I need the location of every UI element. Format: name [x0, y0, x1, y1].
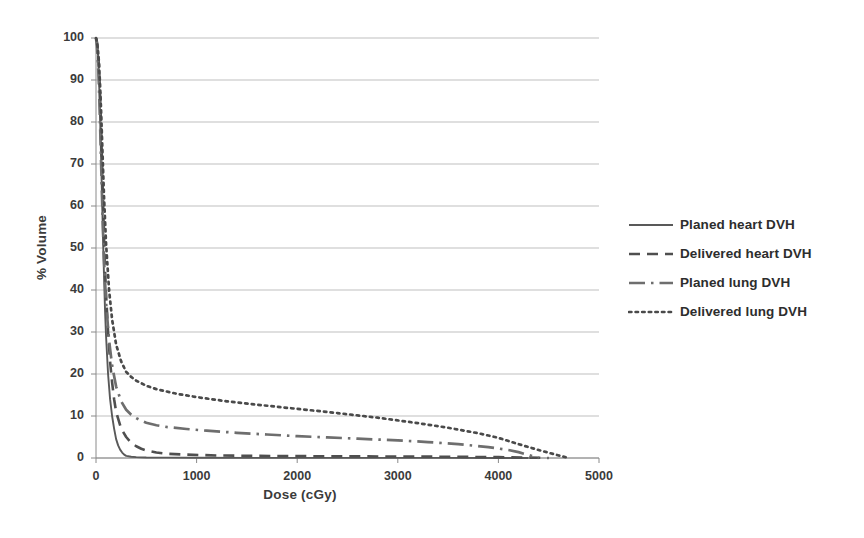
y-tick-label-20: 20 — [44, 366, 84, 380]
legend-item-3[interactable]: Delivered lung DVH — [628, 297, 860, 326]
dvh-chart-figure: Dose (cGy) % Volume 01020304050607080901… — [0, 0, 864, 538]
legend-item-1[interactable]: Delivered heart DVH — [628, 239, 860, 268]
solid-line-key — [628, 218, 674, 232]
legend-label-2: Planed lung DVH — [680, 275, 790, 290]
y-tick-label-90: 90 — [44, 72, 84, 86]
legend-item-2[interactable]: Planed lung DVH — [628, 268, 860, 297]
legend-label-1: Delivered heart DVH — [680, 246, 812, 261]
y-tick-label-0: 0 — [44, 450, 84, 464]
y-tick-label-60: 60 — [44, 198, 84, 212]
chart-legend: Planed heart DVHDelivered heart DVHPlane… — [628, 210, 860, 326]
x-axis-title: Dose (cGy) — [0, 487, 600, 502]
x-tick-label-5000: 5000 — [569, 469, 629, 483]
tick-marks-group — [91, 38, 599, 463]
y-tick-label-70: 70 — [44, 156, 84, 170]
x-tick-label-1000: 1000 — [167, 469, 227, 483]
x-tick-label-4000: 4000 — [468, 469, 528, 483]
x-tick-label-2000: 2000 — [267, 469, 327, 483]
x-tick-label-3000: 3000 — [368, 469, 428, 483]
y-tick-label-30: 30 — [44, 324, 84, 338]
y-tick-label-50: 50 — [44, 240, 84, 254]
x-tick-label-0: 0 — [66, 469, 126, 483]
legend-label-0: Planed heart DVH — [680, 217, 795, 232]
y-tick-label-10: 10 — [44, 408, 84, 422]
legend-label-3: Delivered lung DVH — [680, 304, 807, 319]
dashed-line-key — [628, 247, 674, 261]
y-tick-label-40: 40 — [44, 282, 84, 296]
y-tick-label-100: 100 — [44, 30, 84, 44]
dashdot-line-key — [628, 276, 674, 290]
legend-item-0[interactable]: Planed heart DVH — [628, 210, 860, 239]
gridlines-group — [96, 38, 599, 458]
y-tick-label-80: 80 — [44, 114, 84, 128]
dotted-line-key — [628, 305, 674, 319]
